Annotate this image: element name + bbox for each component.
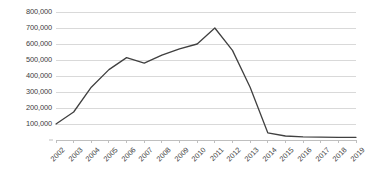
- x-axis-labels: 2002200320042005200620072008200920102011…: [0, 0, 360, 189]
- line-chart: 100,000200,000300,000400,000500,000600,0…: [0, 0, 360, 189]
